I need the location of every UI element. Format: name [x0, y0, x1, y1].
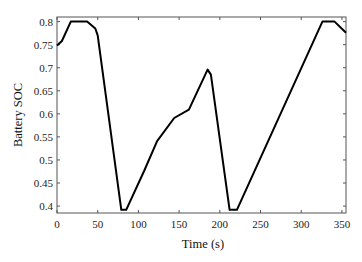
data-series: [57, 22, 346, 210]
y-tick-label: 0.7: [39, 62, 53, 74]
x-tick-label: 250: [252, 218, 269, 230]
y-tick-label: 0.8: [39, 16, 53, 28]
y-tick-label: 0.55: [34, 131, 54, 143]
y-tick-label: 0.6: [39, 108, 53, 120]
x-tick-label: 350: [334, 218, 351, 230]
x-tick-label: 300: [293, 218, 310, 230]
y-axis-label: Battery SOC: [11, 83, 25, 147]
y-axis-ticks: 0.40.450.50.550.60.650.70.750.8: [34, 16, 346, 212]
x-tick-label: 0: [54, 218, 60, 230]
plot-frame: [57, 17, 346, 213]
y-tick-label: 0.45: [34, 177, 54, 189]
y-tick-label: 0.65: [34, 85, 54, 97]
x-tick-label: 50: [92, 218, 104, 230]
y-tick-label: 0.75: [34, 39, 54, 51]
y-tick-label: 0.4: [39, 200, 53, 212]
soc-line-chart: 050100150200250300350 0.40.450.50.550.60…: [0, 0, 362, 262]
x-tick-label: 100: [130, 218, 147, 230]
x-axis-label: Time (s): [182, 237, 224, 251]
x-tick-label: 150: [171, 218, 188, 230]
soc-line: [57, 22, 346, 210]
x-tick-label: 200: [212, 218, 229, 230]
y-tick-label: 0.5: [39, 154, 53, 166]
